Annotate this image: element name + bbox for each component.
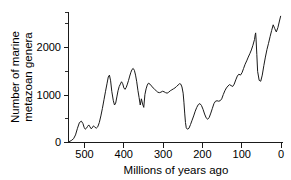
x-tick-label-100: 100 <box>233 148 251 160</box>
biodiversity-line-chart: 0 1000 2000 500 400 300 200 100 0 Millio… <box>0 0 291 180</box>
x-tick-label-400: 400 <box>115 148 133 160</box>
y-tick-label-0: 0 <box>55 136 61 148</box>
x-tick-label-500: 500 <box>75 148 93 160</box>
y-axis-title-line2: metazoan genera <box>22 32 34 122</box>
chart-figure: 0 1000 2000 500 400 300 200 100 0 Millio… <box>0 0 291 180</box>
y-tick-label-2000: 2000 <box>37 41 61 53</box>
x-tick-label-300: 300 <box>154 148 172 160</box>
x-tick-label-0: 0 <box>278 148 284 160</box>
x-axis-title: Millions of years ago <box>124 164 229 176</box>
y-axis-title-line1: Number of marine <box>9 31 21 123</box>
x-tick-label-200: 200 <box>193 148 211 160</box>
y-tick-label-1000: 1000 <box>37 89 61 101</box>
biodiversity-curve <box>69 16 280 141</box>
